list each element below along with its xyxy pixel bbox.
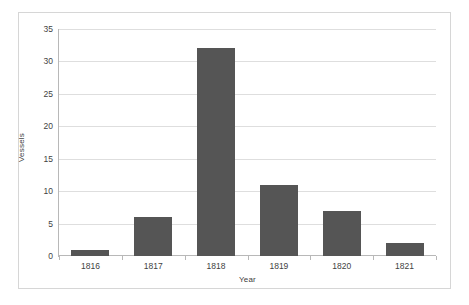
x-axis-tick-label: 1817 bbox=[122, 261, 185, 271]
bar-series bbox=[59, 29, 436, 256]
x-axis-tick-mark bbox=[59, 256, 60, 260]
bar[interactable] bbox=[260, 185, 298, 256]
bar-slot bbox=[185, 29, 248, 256]
x-axis-tick-label: 1821 bbox=[373, 261, 436, 271]
plot-area-wrapper: Vessels 05101520253035 18161817181818191… bbox=[19, 13, 450, 288]
plot-area bbox=[59, 29, 436, 256]
y-axis-tick-label: 20 bbox=[27, 122, 53, 131]
y-axis-tick-labels: 05101520253035 bbox=[27, 29, 53, 256]
x-axis-tick-label: 1816 bbox=[59, 261, 122, 271]
x-axis-tick-label: 1820 bbox=[310, 261, 373, 271]
y-axis-tick-label: 0 bbox=[27, 252, 53, 261]
bar-slot bbox=[310, 29, 373, 256]
y-axis-tick-label: 5 bbox=[27, 220, 53, 229]
y-axis-tick-label: 10 bbox=[27, 187, 53, 196]
bar-slot bbox=[122, 29, 185, 256]
bar-slot bbox=[59, 29, 122, 256]
x-axis-tick-mark bbox=[185, 256, 186, 260]
bar[interactable] bbox=[197, 48, 235, 256]
x-axis-tick-label: 1818 bbox=[185, 261, 248, 271]
x-axis-tick-mark bbox=[436, 256, 437, 260]
x-axis-tick-mark bbox=[248, 256, 249, 260]
chart-container: Vessels 05101520253035 18161817181818191… bbox=[18, 12, 451, 289]
x-axis-tick-label: 1819 bbox=[247, 261, 310, 271]
bar[interactable] bbox=[323, 211, 361, 256]
bar[interactable] bbox=[386, 243, 424, 256]
bar[interactable] bbox=[71, 250, 109, 256]
x-axis-title: Year bbox=[59, 275, 436, 284]
bar-slot bbox=[247, 29, 310, 256]
y-axis-tick-label: 25 bbox=[27, 90, 53, 99]
x-axis-tick-mark bbox=[310, 256, 311, 260]
y-axis-tick-label: 35 bbox=[27, 25, 53, 34]
y-axis-tick-label: 15 bbox=[27, 155, 53, 164]
x-axis-tick-labels: 181618171818181918201821 bbox=[59, 261, 436, 271]
bar-slot bbox=[373, 29, 436, 256]
x-axis-tick-mark bbox=[122, 256, 123, 260]
x-axis-tick-mark bbox=[373, 256, 374, 260]
bar[interactable] bbox=[134, 217, 172, 256]
y-axis-tick-label: 30 bbox=[27, 57, 53, 66]
y-axis-title: Vessels bbox=[17, 87, 26, 207]
